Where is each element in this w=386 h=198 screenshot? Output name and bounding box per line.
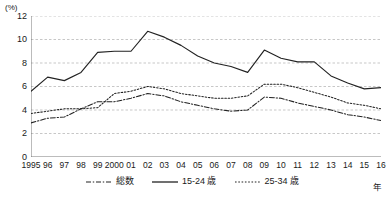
y-tick-label: 6 [22,82,27,91]
x-tick-label: 13 [326,160,335,170]
x-tick-label: 02 [143,160,152,170]
legend-item[interactable]: 25-34 歳 [235,176,300,187]
x-tick-label: 12 [310,160,319,170]
x-tick-label: 99 [93,160,102,170]
plot-area [31,16,381,157]
x-tick-label: 06 [210,160,219,170]
y-tick-label: 8 [22,59,27,68]
x-tick-label: 2000 [105,160,124,170]
legend-item[interactable]: 15-24 歳 [152,176,217,187]
x-tick-label: 08 [243,160,252,170]
x-tick-label: 03 [160,160,169,170]
legend-line-swatch-icon [86,178,112,186]
x-tick-label: 96 [43,160,52,170]
x-tick-label: 97 [60,160,69,170]
x-tick-label: 14 [343,160,352,170]
x-tick-label: 01 [126,160,135,170]
y-tick-label: 4 [22,106,27,115]
x-tick-label: 10 [276,160,285,170]
plot-svg [31,16,381,157]
y-tick-label: 12 [17,12,27,21]
x-axis-tick-labels: 1995969798992000010203040506070809101112… [0,160,385,174]
x-tick-label: 11 [293,160,302,170]
x-tick-label: 15 [360,160,369,170]
legend-line-swatch-icon [235,178,261,186]
legend-label: 15-24 歳 [182,176,217,187]
y-tick-label: 10 [17,35,27,44]
x-tick-label: 07 [226,160,235,170]
x-tick-label: 98 [76,160,85,170]
x-tick-label: 09 [260,160,269,170]
x-tick-label: 05 [193,160,202,170]
x-tick-label: 1995 [22,160,41,170]
x-tick-label: 04 [176,160,185,170]
legend-label: 総数 [116,176,134,187]
series-line-1 [31,31,381,91]
chart-legend: 総数15-24 歳25-34 歳 [0,176,385,187]
y-tick-label: 2 [22,129,27,138]
legend-item[interactable]: 総数 [86,176,134,187]
legend-label: 25-34 歳 [265,176,300,187]
x-tick-label: 16 [376,160,385,170]
legend-line-swatch-icon [152,178,178,186]
